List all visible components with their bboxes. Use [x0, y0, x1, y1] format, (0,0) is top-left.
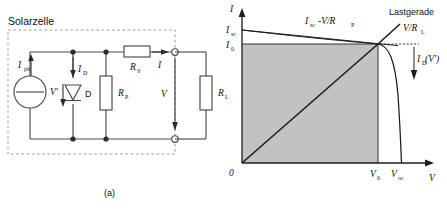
x-tick-v0-label: V [370, 169, 377, 179]
rs-label: R [129, 62, 136, 72]
origin-label: 0 [229, 168, 234, 178]
circuit-svg: Solarzelle I ph D [0, 0, 223, 185]
caption-a: (a) [104, 188, 115, 198]
iph-arrowhead [28, 54, 34, 61]
i-arrowhead [161, 49, 169, 55]
node-diode-bot [70, 136, 75, 141]
panel-a-circuit-diagram: Solarzelle I ph D [0, 0, 223, 211]
node-diode-top [70, 49, 75, 54]
y-tick-isc-label: I [225, 25, 230, 35]
iv-chart-svg: I V 0 I sc I 0 V 0 V oc [223, 0, 447, 190]
panel-b-iv-characteristic-chart: I V 0 I sc I 0 V 0 V oc [223, 0, 447, 211]
v-arrowhead [172, 122, 178, 131]
solarzelle-label: Solarzelle [8, 15, 54, 27]
id-v-arrowhead [411, 70, 417, 80]
y-tick-i0-label: I [225, 40, 230, 50]
id-arrowhead [70, 70, 76, 78]
node-rp-top [103, 49, 108, 54]
y-axis-label: I [229, 4, 234, 14]
y-axis-arrowhead [239, 8, 246, 17]
load-line-formula: V/R [403, 23, 417, 33]
diode-symbol [65, 85, 81, 100]
v-output-label: V [161, 89, 168, 99]
load-line-formula-subscript: L [421, 29, 425, 35]
shunt-resistor-rp [100, 76, 112, 110]
load-resistor-rl [200, 76, 212, 110]
shunt-annotation-sub2: P [351, 22, 355, 28]
rs-subscript: S [137, 68, 140, 74]
v-prime-label: V' [50, 87, 59, 97]
x-axis-arrowhead [425, 160, 434, 167]
figure-root: Solarzelle I ph D [0, 0, 447, 211]
x-tick-v0-subscript: 0 [377, 175, 380, 181]
id-label: I [77, 64, 82, 74]
x-axis-label: V [429, 173, 436, 183]
rp-subscript: P [125, 94, 129, 100]
iph-subscript: ph [24, 66, 30, 72]
x-tick-voc-label: V [391, 169, 398, 179]
i-output-label: I [157, 60, 162, 70]
id-of-vprime-argument: (V') [425, 54, 439, 65]
x-tick-voc-subscript: oc [398, 175, 404, 181]
diode-d-label: D [85, 89, 92, 99]
vprime-arrowhead [60, 99, 66, 107]
shunt-annotation-rest: -V/R [318, 16, 336, 26]
shunt-annotation-main: I [304, 16, 309, 26]
shunt-annotation-sub1: sc [310, 22, 315, 28]
y-tick-isc-subscript: sc [231, 31, 236, 37]
y-tick-i0-subscript: 0 [231, 46, 234, 52]
series-resistor-rs [124, 46, 150, 57]
iph-label: I [17, 60, 22, 70]
id-of-vprime-label: I [416, 54, 421, 64]
rp-label: R [117, 88, 124, 98]
node-rp-bot [103, 136, 108, 141]
lastgerade-title: Lastgerade [389, 7, 434, 17]
id-subscript: D [83, 70, 88, 76]
